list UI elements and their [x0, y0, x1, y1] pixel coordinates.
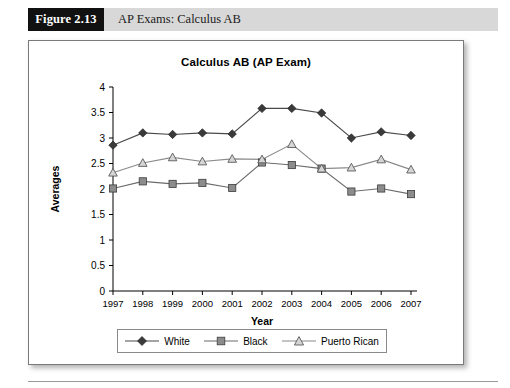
x-tick-label: 2002 [251, 298, 272, 309]
x-tick-label: 2001 [222, 298, 243, 309]
y-tick-label: 3 [99, 133, 105, 144]
x-tick-label: 2004 [311, 298, 332, 309]
x-axis: 1997199819992000200120022003200420052006… [102, 291, 421, 309]
chart-plot-area: 00.511.522.533.54 1997199819992000200120… [29, 41, 465, 366]
x-tick-label: 2000 [192, 298, 213, 309]
legend-marker-open-triangle [282, 335, 316, 347]
page-divider [28, 381, 498, 382]
x-tick-label: 2005 [341, 298, 362, 309]
data-point-white [288, 104, 296, 112]
series-line-white [113, 108, 411, 145]
x-axis-title: Year [251, 315, 273, 327]
series-line-black [113, 162, 411, 194]
x-tick-label: 1998 [132, 298, 153, 309]
x-tick-label: 1997 [102, 298, 123, 309]
x-tick-label: 2007 [400, 298, 421, 309]
data-point-puerto-rican [168, 153, 177, 161]
x-tick-label: 2003 [281, 298, 302, 309]
data-point-black [348, 188, 355, 195]
y-tick-label: 1.5 [91, 209, 105, 220]
y-tick-label: 4 [99, 82, 105, 93]
series-layer [109, 104, 416, 197]
legend-marker-filled-square [204, 335, 238, 347]
y-axis-title: Averages [49, 165, 61, 212]
chart-legend: White Black Puerto Rican [117, 329, 387, 353]
data-point-white [168, 130, 176, 138]
data-point-black [109, 185, 116, 192]
data-point-black [139, 178, 146, 185]
y-tick-label: 2 [99, 184, 105, 195]
data-point-puerto-rican [288, 140, 297, 148]
data-point-white [198, 129, 206, 137]
chart-container: Calculus AB (AP Exam) 00.511.522.533.54 … [28, 40, 464, 365]
data-point-black [378, 185, 385, 192]
figure-caption: AP Exams: Calculus AB [104, 8, 241, 31]
data-point-black [229, 184, 236, 191]
data-point-black [407, 191, 414, 198]
data-point-black [288, 161, 295, 168]
y-tick-label: 0.5 [91, 260, 105, 271]
legend-label-black: Black [243, 336, 267, 347]
legend-marker-filled-diamond [125, 335, 159, 347]
x-tick-label: 2006 [371, 298, 392, 309]
legend-item-white[interactable]: White [125, 335, 190, 347]
legend-label-white: White [164, 336, 190, 347]
legend-item-puerto-rican[interactable]: Puerto Rican [282, 335, 379, 347]
data-point-white [109, 141, 117, 149]
legend-label-puerto-rican: Puerto Rican [321, 336, 379, 347]
data-point-white [377, 128, 385, 136]
data-point-puerto-rican [377, 155, 386, 163]
figure-number-badge: Figure 2.13 [28, 8, 104, 31]
data-point-black [169, 180, 176, 187]
data-point-white [139, 129, 147, 137]
y-tick-label: 3.5 [91, 107, 105, 118]
y-tick-label: 1 [99, 235, 105, 246]
data-point-white [407, 131, 415, 139]
figure-header: Figure 2.13 AP Exams: Calculus AB [28, 8, 498, 31]
data-point-black [199, 179, 206, 186]
legend-item-black[interactable]: Black [204, 335, 267, 347]
y-tick-label: 0 [99, 286, 105, 297]
y-tick-label: 2.5 [91, 158, 105, 169]
x-tick-label: 1999 [162, 298, 183, 309]
